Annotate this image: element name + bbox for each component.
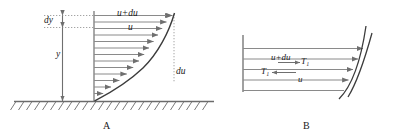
velocity-profile-curve	[95, 13, 175, 101]
ground-boundary	[11, 102, 215, 111]
label-y: y	[56, 50, 60, 60]
label-b-u: u	[298, 75, 303, 84]
diagram-svg	[0, 0, 397, 138]
label-tau-lower: T₁	[261, 67, 269, 76]
figure-canvas: dy y u+du u du A u+du u T₁ T₁ B	[0, 0, 397, 138]
label-b-u-plus-du: u+du	[271, 53, 291, 62]
panel-b-letter: B	[303, 120, 310, 131]
label-dy: dy	[44, 16, 53, 26]
label-tau-upper: T₁	[301, 57, 309, 66]
label-u-plus-du: u+du	[117, 9, 138, 19]
label-u: u	[128, 23, 133, 33]
panel-b-curve-rear	[348, 33, 372, 97]
panel-a-group	[11, 11, 215, 110]
panel-a-letter: A	[103, 120, 110, 131]
label-du: du	[176, 67, 186, 77]
